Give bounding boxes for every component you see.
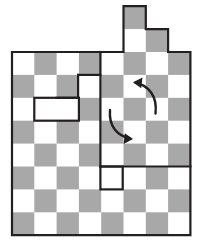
protrusion-cell [146, 29, 168, 52]
checkerboard-diagram [0, 0, 204, 250]
grid-cell-shaded [57, 121, 79, 144]
grid-cell-shaded [124, 189, 146, 212]
grid-cell-shaded [168, 189, 190, 212]
grid-cell-shaded [168, 98, 190, 121]
puzzle-figure [0, 0, 204, 250]
grid-cell-shaded [101, 75, 123, 98]
protrusion-cell [124, 6, 146, 29]
grid-cell-shaded [57, 75, 79, 98]
grid-cell-shaded [34, 52, 56, 75]
protrusion-cell [124, 29, 146, 52]
grid-cell-shaded [146, 212, 168, 235]
grid-cell-shaded [146, 167, 168, 190]
grid-cell-shaded [12, 75, 34, 98]
grid-cell-shaded [168, 144, 190, 167]
grid-cell-shaded [57, 212, 79, 235]
grid-cell-shaded [168, 52, 190, 75]
grid-cell-shaded [57, 167, 79, 190]
grid-cell-shaded [79, 144, 101, 167]
grid-cell-shaded [12, 121, 34, 144]
grid-cell-shaded [124, 144, 146, 167]
grid-cell-shaded [146, 121, 168, 144]
grid-cell-shaded [12, 167, 34, 190]
grid-cell-shaded [146, 75, 168, 98]
grid-cell-shaded [79, 52, 101, 75]
white-unit-square [100, 167, 122, 190]
arrow-up-left-head [133, 78, 143, 89]
grid-cell-shaded [79, 189, 101, 212]
white-domino [34, 98, 79, 121]
arrow-down-right-head [124, 133, 133, 144]
grid-cell-shaded [124, 98, 146, 121]
grid-cell-shaded [79, 98, 101, 121]
grid-cell-shaded [34, 189, 56, 212]
grid-cell-shaded [101, 212, 123, 235]
grid-cell-shaded [12, 212, 34, 235]
grid-cell-shaded [124, 52, 146, 75]
grid-cell-shaded [34, 144, 56, 167]
